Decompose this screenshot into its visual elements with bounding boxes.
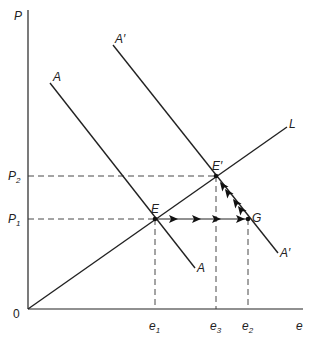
e3-label: e3 bbox=[210, 319, 222, 335]
line-A bbox=[50, 83, 195, 268]
line-A-prime-label-bottom: A′ bbox=[279, 246, 291, 260]
line-L-label: L bbox=[289, 117, 296, 131]
line-A-label-bottom: A bbox=[196, 261, 205, 275]
economics-diagram: P e 0 P2 P1 e1 e3 e2 L A A A′ A′ E E′ G bbox=[0, 0, 312, 337]
e2-label: e2 bbox=[242, 319, 254, 335]
line-A-label-top: A bbox=[52, 70, 61, 84]
p2-label: P2 bbox=[8, 169, 21, 185]
e1-label: e1 bbox=[149, 319, 160, 335]
up-left-arrow-icon bbox=[230, 197, 242, 209]
x-axis-label: e bbox=[296, 319, 303, 333]
point-G bbox=[246, 217, 251, 222]
y-axis-label: P bbox=[14, 9, 22, 23]
origin-label: 0 bbox=[13, 307, 20, 321]
point-E-prime-label: E′ bbox=[212, 159, 223, 173]
point-E-label: E bbox=[151, 202, 160, 216]
point-E bbox=[153, 217, 158, 222]
up-left-arrow-icon bbox=[217, 180, 229, 192]
point-E-prime bbox=[214, 174, 219, 179]
point-G-label: G bbox=[252, 211, 261, 225]
line-A-prime-label-top: A′ bbox=[114, 32, 126, 46]
p1-label: P1 bbox=[8, 212, 20, 228]
